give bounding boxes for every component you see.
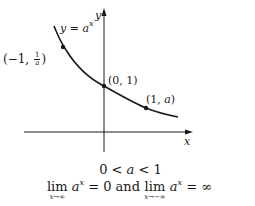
x-axis-arrow-icon	[185, 130, 193, 135]
limit-word: lim	[47, 180, 68, 193]
point-1-marker	[144, 106, 148, 110]
limit-subscript: x→∞	[47, 194, 68, 201]
curve-label-exp: x	[89, 19, 94, 28]
limit-pos-inf: lim x→∞	[47, 180, 68, 201]
limit1-value: = 0	[88, 179, 111, 194]
condition-left: 0 <	[99, 162, 122, 177]
point-neg1-marker	[61, 45, 65, 49]
point-neg1-label-suffix: )	[41, 52, 46, 66]
curve-label-eq: =	[70, 22, 79, 35]
limit-neg-inf: lim x→−∞	[144, 180, 166, 201]
limit1-exp: x	[79, 178, 84, 187]
limits-connector: and	[116, 179, 140, 194]
limit2-value: = ∞	[186, 179, 212, 194]
point-1-label-suffix: )	[171, 93, 175, 106]
limits-caption: lim x→∞ ax = 0 and lim x→−∞ ax = ∞	[0, 180, 255, 201]
point-neg1-fraction: 1 a	[34, 52, 40, 67]
point-neg1-label: (−1, 1 a )	[3, 52, 46, 67]
point-1-label-prefix: (1,	[146, 93, 161, 106]
fraction-denominator: a	[34, 60, 40, 67]
point-neg1-label-prefix: (−1,	[3, 52, 29, 66]
limit-word: lim	[144, 180, 166, 193]
point-1-label: (1, a)	[146, 94, 175, 105]
curve-label: y = ax	[60, 23, 94, 34]
limit2-base: a	[170, 179, 178, 194]
y-axis-arrow-icon	[102, 8, 107, 16]
point-0-label: (0, 1)	[108, 75, 138, 86]
condition-right: < 1	[139, 162, 162, 177]
condition-var: a	[127, 162, 135, 177]
y-axis-label: y	[95, 10, 101, 21]
x-axis-label: x	[184, 136, 190, 147]
limit2-exp: x	[178, 178, 183, 187]
condition-caption: 0 < a < 1	[0, 163, 255, 176]
curve-label-lhs: y	[60, 22, 66, 35]
point-0-marker	[102, 84, 106, 88]
limit-subscript: x→−∞	[144, 194, 166, 201]
